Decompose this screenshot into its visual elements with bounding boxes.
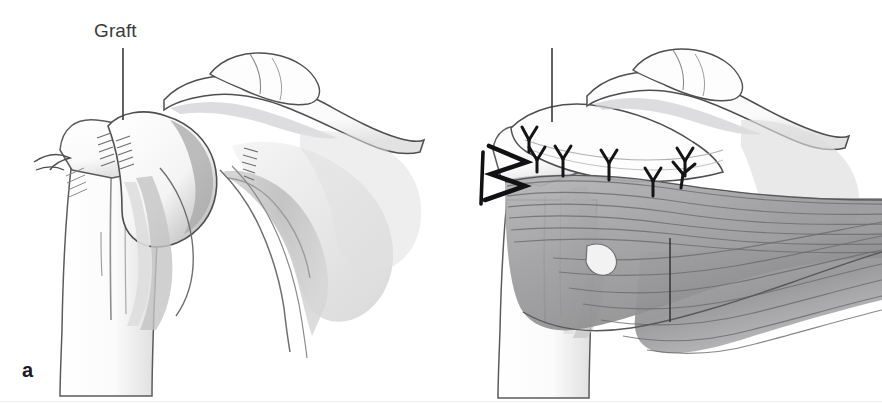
figure-container: Graft a (0, 0, 882, 403)
clavicle-a (210, 53, 320, 105)
panel-letter-a: a (22, 360, 33, 380)
clavicle-b (633, 49, 743, 101)
panel-a: Graft a (0, 0, 441, 403)
page-bottom-rule (0, 401, 882, 402)
label-graft-panel-a: Graft (94, 20, 137, 41)
panel-b: Graft Infraspinatus teres minor b (441, 0, 882, 403)
panel-a-illustration (0, 0, 441, 403)
panel-b-illustration (441, 0, 882, 403)
zigzag-suture-tail (481, 152, 483, 204)
